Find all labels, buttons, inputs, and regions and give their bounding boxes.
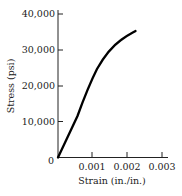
x-tick-label: 0.001 xyxy=(78,161,105,172)
stress-strain-curve xyxy=(58,31,136,158)
y-tick-label: 10,000 xyxy=(22,116,55,127)
y-tick-label: 30,000 xyxy=(22,44,55,55)
y-axis-label: Stress (psi) xyxy=(5,59,16,114)
x-tick-labels: 0.001 0.002 0.003 xyxy=(78,161,175,172)
y-ticks xyxy=(58,14,63,122)
x-tick-label: 0.003 xyxy=(148,161,175,172)
y-tick-label: 40,000 xyxy=(22,8,55,19)
y-tick-label: 20,000 xyxy=(22,80,55,91)
x-ticks xyxy=(92,152,162,158)
x-axis-label: Strain (in./in.) xyxy=(78,175,146,186)
x-tick-label: 0.002 xyxy=(113,161,140,172)
y-tick-labels: 40,000 30,000 20,000 10,000 0 xyxy=(22,8,55,166)
stress-strain-chart: 40,000 30,000 20,000 10,000 0 0.001 0.00… xyxy=(0,0,182,196)
y-tick-label: 0 xyxy=(48,155,54,166)
